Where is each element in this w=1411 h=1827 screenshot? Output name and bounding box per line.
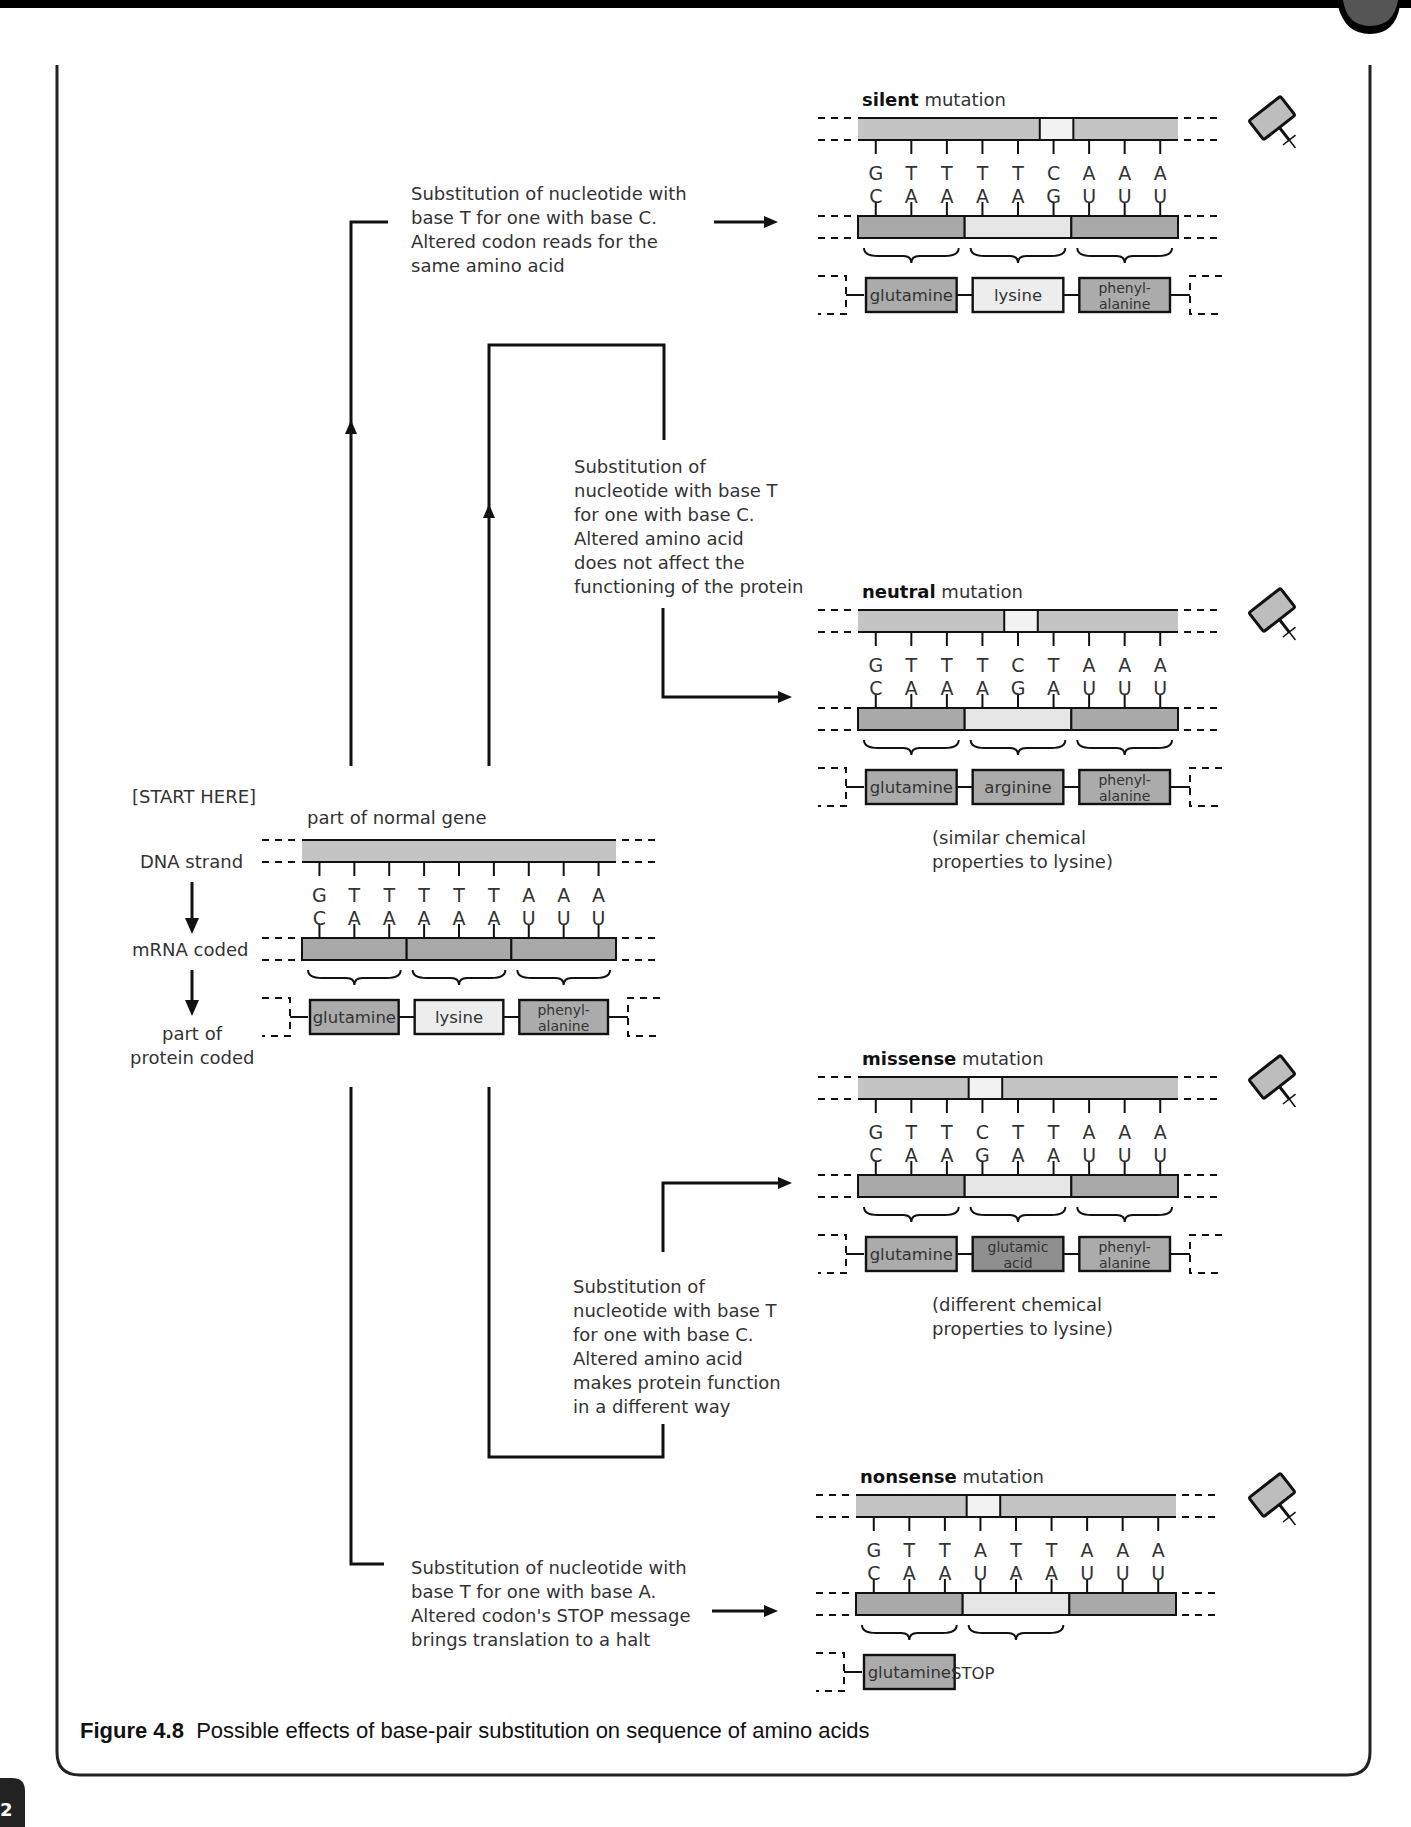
- protein-coded-label-2: protein coded: [130, 1047, 255, 1068]
- silent-codon-brace: [1077, 248, 1172, 263]
- figure-number: Figure 4.8: [80, 1718, 184, 1743]
- missense-mutation-diagram: missense mutationGCTATACGTATAAUAUAUgluta…: [818, 1048, 1311, 1339]
- missense-mrna-base: U: [1082, 1144, 1096, 1166]
- nonsense-description-line: Substitution of nucleotide with: [411, 1557, 687, 1578]
- missense-mrna-codon: [965, 1175, 1072, 1197]
- normal-dna-base: A: [592, 884, 605, 906]
- nonsense-dna-base: A: [1081, 1539, 1094, 1561]
- normal-dna-base: T: [452, 884, 465, 906]
- figure-canvas: 2 GCTATATATATAAUAUAUglutaminelysinepheny…: [0, 0, 1411, 1827]
- nonsense-dna-base: T: [1045, 1539, 1058, 1561]
- silent-amino-acid-label: phenyl-: [1098, 280, 1150, 296]
- normal-codon-brace: [517, 970, 610, 985]
- neutral-amino-acid-label: glutamine: [870, 778, 953, 797]
- nonsense-description-line: brings translation to a halt: [411, 1629, 650, 1650]
- mrna-coded-label: mRNA coded: [132, 939, 248, 960]
- silent-mrna-codon: [858, 216, 965, 238]
- missense-result-arrow-icon: [778, 1177, 792, 1189]
- figure-caption-text: Possible effects of base-pair substituti…: [184, 1718, 870, 1743]
- missense-codon-brace: [971, 1207, 1066, 1222]
- silent-mrna-base: U: [1082, 185, 1096, 207]
- neutral-mrna-base: C: [869, 677, 882, 699]
- missense-amino-acid-label: glutamine: [870, 1245, 953, 1264]
- silent-mrna-base: A: [905, 185, 918, 207]
- normal-mrna-base: A: [348, 907, 361, 929]
- silent-mutation-site: [1040, 118, 1074, 140]
- missense-description-line: in a different way: [573, 1396, 731, 1417]
- normal-mrna-base: A: [453, 907, 466, 929]
- missense-result-line: [663, 1183, 778, 1252]
- normal-mrna-base: U: [522, 907, 536, 929]
- missense-mutation-title: missense mutation: [862, 1048, 1044, 1069]
- neutral-mrna-base: A: [1047, 677, 1060, 699]
- nonsense-mrna-codon: [856, 1593, 963, 1615]
- missense-dna-base: T: [1047, 1121, 1060, 1143]
- neutral-dna-base: T: [976, 654, 989, 676]
- silent-mutation-title: silent mutation: [862, 89, 1006, 110]
- normal-mrna-base: C: [313, 907, 326, 929]
- start-here-label: [START HERE]: [132, 786, 256, 807]
- silent-dna-base: A: [1118, 162, 1131, 184]
- nonsense-codon-brace: [862, 1625, 957, 1640]
- normal-gene-diagram: GCTATATATATAAUAUAUglutaminelysinephenyl-…: [262, 840, 660, 1036]
- neutral-mrna-base: U: [1153, 677, 1167, 699]
- neutral-mrna-base: A: [905, 677, 918, 699]
- silent-dna-base: C: [1047, 162, 1060, 184]
- figure-frame: [57, 65, 1370, 1775]
- normal-dna-base: T: [417, 884, 430, 906]
- normal-mrna-base: U: [557, 907, 571, 929]
- nonsense-mrna-base: U: [1151, 1562, 1165, 1584]
- missense-dna-base: T: [1011, 1121, 1024, 1143]
- nonsense-dna-base: T: [1009, 1539, 1022, 1561]
- missense-dna-base: G: [868, 1121, 883, 1143]
- missense-mrna-base: A: [1012, 1144, 1025, 1166]
- neutral-mrna-base: A: [940, 677, 953, 699]
- svg-text:acid: acid: [1003, 1255, 1032, 1271]
- normal-mrna-codon: [511, 938, 616, 960]
- missense-mrna-codon: [1071, 1175, 1178, 1197]
- neutral-mrna-base: U: [1118, 677, 1132, 699]
- silent-description-line: Substitution of nucleotide with: [411, 183, 687, 204]
- neutral-description-line: Altered amino acid: [574, 528, 744, 549]
- neutral-mrna-base: A: [976, 677, 989, 699]
- silent-mrna-base: U: [1118, 185, 1132, 207]
- normal-mrna-codon: [407, 938, 512, 960]
- nonsense-dna-base: T: [903, 1539, 916, 1561]
- protein-coded-label-1: part of: [162, 1023, 223, 1044]
- missense-mrna-codon: [858, 1175, 965, 1197]
- nonsense-mrna-codon: [1069, 1593, 1176, 1615]
- nonsense-mrna-base: A: [938, 1562, 951, 1584]
- silent-description-line: Altered codon reads for the: [411, 231, 658, 252]
- normal-dna-base: A: [557, 884, 570, 906]
- normal-dna-base: T: [487, 884, 500, 906]
- neutral-mutagen-stamp-icon: [1249, 588, 1311, 652]
- silent-dna-base: A: [1154, 162, 1167, 184]
- silent-mrna-base: G: [1046, 185, 1061, 207]
- missense-description-line: Altered amino acid: [573, 1348, 743, 1369]
- nonsense-dna-base: A: [1152, 1539, 1165, 1561]
- silent-codon-brace: [971, 248, 1066, 263]
- normal-gene-title: part of normal gene: [307, 807, 486, 828]
- neutral-result-arrow-icon: [778, 691, 792, 703]
- normal-dna-base: T: [382, 884, 395, 906]
- silent-mrna-codon: [965, 216, 1072, 238]
- missense-amino-acid-label: glutamic: [988, 1239, 1049, 1255]
- missense-dna-base: T: [905, 1121, 918, 1143]
- nonsense-codon-brace: [969, 1625, 1064, 1640]
- silent-mrna-base: A: [1012, 185, 1025, 207]
- svg-text:alanine: alanine: [1099, 788, 1150, 804]
- silent-amino-acid-label: lysine: [994, 286, 1042, 305]
- neutral-dna-base: T: [940, 654, 953, 676]
- silent-dna-base: T: [905, 162, 918, 184]
- neutral-codon-brace: [1077, 740, 1172, 755]
- neutral-mutation-site: [1004, 610, 1038, 632]
- neutral-mrna-codon: [1071, 708, 1178, 730]
- neutral-dna-base: G: [868, 654, 883, 676]
- top-bar: [0, 0, 1411, 8]
- missense-mrna-base: U: [1118, 1144, 1132, 1166]
- normal-dna-strand: [302, 840, 616, 862]
- nonsense-description-line: Altered codon's STOP message: [411, 1605, 691, 1626]
- nonsense-branch-line: [351, 1087, 384, 1564]
- neutral-dna-base: C: [1011, 654, 1024, 676]
- nonsense-mrna-base: A: [903, 1562, 916, 1584]
